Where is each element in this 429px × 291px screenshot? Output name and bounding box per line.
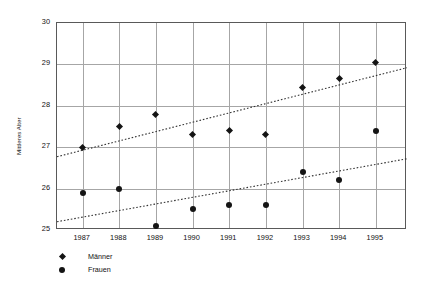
data-point: [153, 223, 159, 229]
data-point: [116, 186, 122, 192]
data-point: [80, 190, 86, 196]
legend-label: Frauen: [88, 263, 111, 276]
chart-figure: Mittleres Alter 252627282930 19871988198…: [0, 0, 429, 291]
x-tick-label: 1988: [98, 234, 138, 241]
trendline-frauen: [57, 159, 407, 222]
x-tick-label: 1987: [62, 234, 102, 241]
legend-item-männer: Männer: [62, 250, 112, 263]
y-tick-label: 26: [26, 184, 50, 191]
y-tick-label: 27: [26, 142, 50, 149]
diamond-marker-icon: [58, 253, 65, 260]
y-tick-label: 29: [26, 59, 50, 66]
x-tick-label: 1990: [172, 234, 212, 241]
x-tick-label: 1994: [318, 234, 358, 241]
plot-area: [56, 22, 406, 229]
x-tick-label: 1995: [355, 234, 395, 241]
y-tick-label: 25: [26, 225, 50, 232]
y-tick-label: 28: [26, 101, 50, 108]
circle-marker-icon: [59, 267, 65, 273]
legend-item-frauen: Frauen: [62, 263, 112, 276]
data-point: [190, 206, 196, 212]
trendlines-layer: [57, 23, 407, 230]
y-axis-title: Mittleres Alter: [16, 118, 22, 155]
x-tick-label: 1992: [245, 234, 285, 241]
chart-legend: MännerFrauen: [62, 250, 112, 276]
data-point: [300, 169, 306, 175]
x-tick-label: 1993: [282, 234, 322, 241]
data-point: [373, 128, 379, 134]
y-tick-label: 30: [26, 18, 50, 25]
trendline-männer: [57, 68, 407, 157]
x-tick-label: 1989: [135, 234, 175, 241]
legend-label: Männer: [88, 250, 112, 263]
x-tick-label: 1991: [208, 234, 248, 241]
